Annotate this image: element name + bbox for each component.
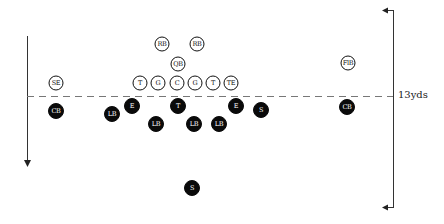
offense-player-g: G <box>188 76 203 91</box>
defense-player-cb: CB <box>48 103 64 119</box>
offense-player-rb: RB <box>190 37 205 52</box>
offense-player-flb: FlB <box>341 56 356 71</box>
defense-player-lb: LB <box>148 116 164 132</box>
defense-player-lb: LB <box>104 106 120 122</box>
defense-player-s: S <box>253 102 269 118</box>
defense-player-s: S <box>184 180 200 196</box>
distance-label: 13yds <box>398 89 428 100</box>
defense-player-lb: LB <box>211 116 227 132</box>
offense-player-te: TE <box>224 76 239 91</box>
defense-player-cb: CB <box>339 99 355 115</box>
defense-player-e: E <box>124 98 140 114</box>
offense-player-qb: QB <box>171 57 186 72</box>
offense-player-g: G <box>151 76 166 91</box>
formation-diagram: 13yds RBRBQBSETGCGTTEFlBCBLBELBTLBLBESCB… <box>0 0 444 224</box>
offense-player-t: T <box>206 76 221 91</box>
defense-player-lb: LB <box>186 116 202 132</box>
offense-player-rb: RB <box>155 37 170 52</box>
defense-player-t: T <box>170 98 186 114</box>
left-down-arrow-icon <box>24 36 31 167</box>
offense-player-t: T <box>133 76 148 91</box>
offense-player-se: SE <box>49 76 64 91</box>
offense-player-c: C <box>170 76 185 91</box>
defense-player-e: E <box>228 98 244 114</box>
right-bracket-arrow-icon <box>382 8 394 211</box>
